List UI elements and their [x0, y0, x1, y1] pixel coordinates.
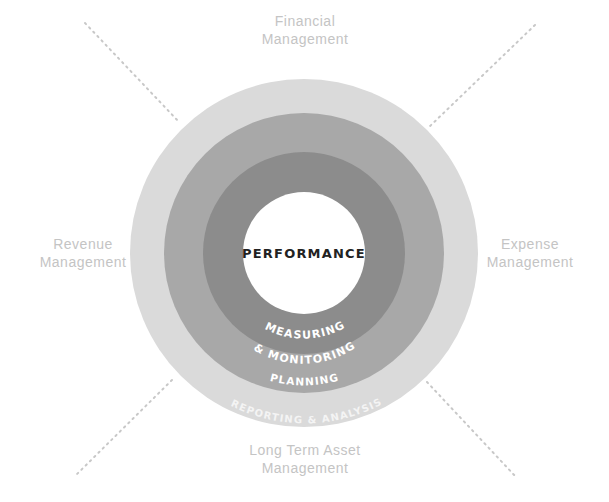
label-financial-management: Financial Management: [240, 12, 370, 48]
label-line: Revenue: [28, 235, 138, 253]
label-line: Management: [240, 30, 370, 48]
label-revenue-management: Revenue Management: [28, 235, 138, 271]
label-line: Management: [225, 459, 385, 477]
label-line: Management: [470, 253, 590, 271]
label-expense-management: Expense Management: [470, 235, 590, 271]
label-line: Expense: [470, 235, 590, 253]
label-line: Management: [28, 253, 138, 271]
connector-bottom-left: [74, 380, 172, 477]
center-label: PERFORMANCE: [242, 246, 366, 261]
label-long-term-asset-management: Long Term Asset Management: [225, 441, 385, 477]
label-line: Long Term Asset: [225, 441, 385, 459]
connector-top-left: [85, 23, 180, 123]
label-line: Financial: [240, 12, 370, 30]
connector-bottom-right: [427, 382, 516, 477]
connector-top-right: [428, 25, 535, 128]
